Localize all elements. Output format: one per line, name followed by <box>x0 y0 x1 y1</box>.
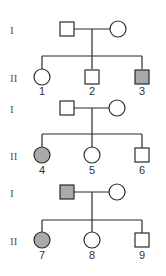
female-symbol-affected <box>34 232 50 248</box>
generation-label-II: II <box>10 72 18 84</box>
generation-label-I: I <box>10 24 14 36</box>
male-symbol-affected <box>60 185 74 199</box>
family-3: I II 7 8 9 <box>10 184 149 261</box>
female-symbol <box>109 184 125 200</box>
individual-id: 8 <box>89 249 95 261</box>
family-1: I II 1 2 3 <box>10 21 149 97</box>
male-symbol <box>60 22 74 36</box>
individual-id: 7 <box>39 249 45 261</box>
generation-label-I: I <box>10 187 14 199</box>
individual-id: 6 <box>139 164 145 176</box>
male-symbol <box>85 70 99 84</box>
female-symbol <box>34 69 50 85</box>
female-symbol <box>84 147 100 163</box>
individual-id: 4 <box>39 164 45 176</box>
male-symbol-affected <box>135 70 149 84</box>
male-symbol <box>60 101 74 115</box>
female-symbol <box>109 100 125 116</box>
male-symbol <box>135 148 149 162</box>
individual-id: 9 <box>139 249 145 261</box>
family-2: I II 4 5 6 <box>10 100 149 176</box>
generation-label-I: I <box>10 103 14 115</box>
individual-id: 1 <box>39 85 45 97</box>
female-symbol <box>84 232 100 248</box>
female-symbol <box>110 21 126 37</box>
individual-id: 3 <box>139 85 145 97</box>
male-symbol <box>135 233 149 247</box>
pedigree-diagram: I II 1 2 3 I II 4 5 6 I II <box>0 0 166 276</box>
generation-label-II: II <box>10 150 18 162</box>
female-symbol-affected <box>34 147 50 163</box>
individual-id: 2 <box>89 85 95 97</box>
generation-label-II: II <box>10 235 18 247</box>
individual-id: 5 <box>89 164 95 176</box>
